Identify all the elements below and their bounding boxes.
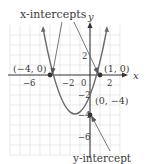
- x-tick-2: 2: [107, 78, 112, 88]
- curve-arrow-right-icon: [105, 26, 110, 32]
- y-tick-m2: −2: [78, 90, 91, 100]
- y-axis-label: y: [87, 11, 94, 22]
- curve-arrow-left-icon: [41, 26, 46, 32]
- x-tick-m6: −6: [23, 78, 36, 88]
- point-label-yint: (0, −4): [95, 95, 129, 106]
- point-label-right: (1, 0): [104, 63, 130, 74]
- x-intercepts-label: x-intercepts: [20, 8, 87, 21]
- y-tick-2: 2: [82, 51, 87, 61]
- y-tick-m6: −6: [78, 132, 91, 142]
- parabola-graph: x-intercepts y-intercept x y (−4, 0) (1,…: [0, 0, 148, 164]
- x-tick-m2: −2: [62, 78, 75, 88]
- y-tick-m4: −4: [78, 110, 91, 120]
- y-intercept-label: y-intercept: [72, 152, 132, 164]
- point-label-left: (−4, 0): [13, 63, 47, 74]
- x-axis-label: x: [133, 70, 139, 81]
- point-x-intercept-left: [48, 73, 53, 78]
- x-tick-0: 0: [81, 78, 86, 88]
